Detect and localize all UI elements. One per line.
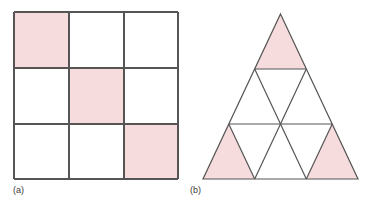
panel-a-label: (a) (13, 185, 24, 195)
panel-b-triangle-subdivision (0, 0, 386, 207)
panel-b-label: (b) (190, 185, 201, 195)
figure-container: (a) (b) (0, 0, 386, 207)
triangle-row0-apex-shaded (255, 14, 307, 69)
